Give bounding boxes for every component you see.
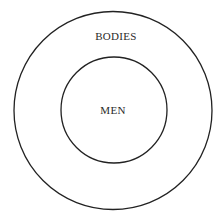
nested-circles-diagram: BODIES MEN xyxy=(0,0,224,222)
inner-label: MEN xyxy=(100,104,125,116)
outer-label: BODIES xyxy=(95,30,137,42)
